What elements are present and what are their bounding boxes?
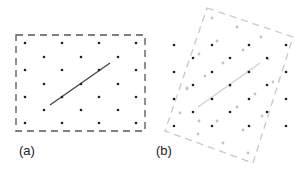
lattice-point [135,122,138,125]
panel-a-label: (a) [19,143,35,158]
lattice-point [285,71,288,74]
lattice-point [285,125,288,128]
lattice-point [248,125,251,128]
lattice-point [266,57,269,60]
lattice-point [192,84,195,87]
lattice-point [61,69,64,72]
lattice-point [24,42,27,45]
rotated-lattice-point [186,88,189,91]
rotated-lattice-point [198,53,201,56]
lattice-point [80,83,83,86]
rotated-lattice-point [216,120,219,123]
lattice-point [285,44,288,47]
lattice-point [229,57,232,60]
lattice-point [98,122,101,125]
rotated-lattice-point [272,81,275,84]
rotated-lattice-point [261,115,264,118]
lattice-point [43,56,46,59]
lattice-point [98,96,101,99]
lattice-point [266,111,269,114]
lattice-point [43,109,46,112]
rotated-lattice-point [254,93,257,96]
lattice-point [61,122,64,125]
rotated-lattice-point [242,49,245,52]
lattice-point [24,122,27,125]
lattice-point [80,109,83,112]
lattice-point [24,96,27,99]
lattice-point [117,56,120,59]
lattice-point [117,83,120,86]
rotated-lattice-point [179,112,182,115]
rotated-lattice-point [236,106,239,109]
lattice-point [117,109,120,112]
lattice-point [229,111,232,114]
lattice-point [98,69,101,72]
lattice-point [248,98,251,101]
panel-b-label: (b) [156,143,172,158]
lattice-point [80,56,83,59]
lattice-point [61,42,64,45]
rotated-lattice-point [242,129,245,132]
rotated-lattice-point [204,75,207,78]
lattice-point [61,96,64,99]
rotated-lattice-point [222,62,225,65]
rotated-lattice-point [197,133,200,136]
rotated-lattice-point [236,26,239,29]
lattice-point [285,98,288,101]
lattice-point [192,57,195,60]
lattice-point [211,98,214,101]
lattice-point [98,42,101,45]
lattice-point [211,125,214,128]
rotated-lattice-point [216,40,219,43]
rotated-lattice-point [222,142,225,145]
lattice-point [248,71,251,74]
rotated-lattice-point [211,17,214,20]
lattice-point [173,44,176,47]
lattice-point [43,83,46,86]
lattice-point [173,125,176,128]
rotated-lattice-point [247,152,250,155]
lattice-point [173,71,176,74]
lattice-point [211,44,214,47]
rotated-lattice-point [198,120,201,123]
lattice-point [135,69,138,72]
lattice-point [135,96,138,99]
lattice-point [266,84,269,87]
lattice-point [211,71,214,74]
lattice-point [229,84,232,87]
rotated-lattice-point [260,36,263,39]
lattice-point [192,111,195,114]
lattice-diagram [0,0,306,172]
lattice-point [173,98,176,101]
lattice-point [135,42,138,45]
lattice-point [248,44,251,47]
lattice-point [24,69,27,72]
